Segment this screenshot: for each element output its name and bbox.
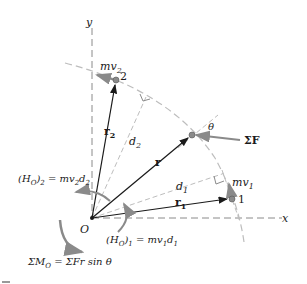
angular-momentum-diagram: y x O 2 1 mv2 mv1 r2 r r1 d2 d1 θ ΣF (HO… [0, 0, 307, 284]
origin-dot [90, 216, 94, 220]
particle [189, 132, 195, 138]
h2-arc [76, 191, 110, 201]
mv2-vector [97, 75, 115, 80]
moment-arc [60, 220, 82, 252]
point-1-label: 1 [238, 193, 245, 206]
theta-label: θ [208, 121, 214, 132]
mv1-label: mv1 [232, 176, 254, 191]
particle-2 [113, 77, 119, 83]
d1-right-angle [214, 176, 224, 184]
d2-right-angle [140, 94, 150, 101]
force-vector [196, 135, 240, 140]
d2-label: d2 [129, 135, 141, 150]
mv2-label: mv2 [100, 60, 122, 75]
r2-label: r2 [104, 125, 115, 140]
particle-1 [229, 196, 235, 202]
h1-equation: (HO)1 = mv1d1 [106, 234, 178, 248]
y-axis-label: y [85, 16, 93, 29]
r-label: r [155, 156, 161, 169]
x-axis-label: x [282, 212, 289, 225]
moment-equation: ΣMO = ΣFr sin θ [27, 256, 112, 270]
origin-label: O [80, 223, 89, 236]
h2-equation: (HO)2 = mv2d2 [18, 173, 91, 187]
r2-vector [92, 85, 115, 218]
d1-label: d1 [176, 180, 188, 195]
r1-label: r1 [175, 196, 186, 211]
d2-line [92, 97, 146, 218]
d1-line [92, 174, 222, 218]
diagram-svg: y x O 2 1 mv2 mv1 r2 r r1 d2 d1 θ ΣF (HO… [0, 0, 307, 284]
force-label: ΣF [244, 134, 260, 147]
